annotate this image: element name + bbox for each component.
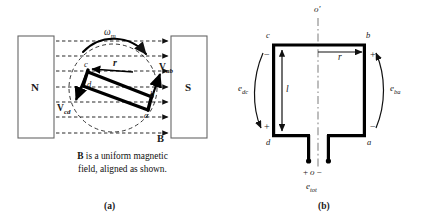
- sign-bottom-right: −: [370, 122, 376, 132]
- panel-b-canvas: [220, 0, 425, 200]
- terminal-minus-sign: −: [317, 167, 322, 177]
- panel-b-tag: (b): [318, 201, 330, 211]
- radius-arrow: [92, 69, 133, 72]
- omega-subscript: m: [111, 32, 116, 40]
- sign-top-right: +: [370, 50, 376, 60]
- sign-bottom-left: +: [264, 122, 270, 132]
- terminal-plus-sign: +: [303, 167, 308, 177]
- panel-b-coil-emf-schematic: o′ c b d a − + + − l r edc eba +o− etot: [220, 0, 425, 224]
- emf-dc-subscript: dc: [242, 88, 248, 95]
- corner-label-d: d: [266, 138, 270, 147]
- node-label-a: a: [144, 111, 148, 120]
- terminal-polarity-label: +o−: [303, 168, 322, 177]
- north-pole-label: N: [31, 82, 39, 93]
- velocity-label-cd: Vcd: [57, 104, 70, 116]
- velocity-cd-symbol: V: [57, 103, 64, 113]
- emf-ba-subscript: ba: [394, 88, 401, 95]
- corner-label-b: b: [366, 31, 370, 40]
- node-label-d: d: [87, 80, 91, 89]
- corner-label-a: a: [367, 138, 371, 147]
- sign-top-left: −: [264, 50, 270, 60]
- node-label-c: c: [84, 60, 88, 69]
- panel-a-tag: (a): [104, 201, 115, 211]
- velocity-ab-subscript: ab: [166, 67, 173, 75]
- emf-label-total: etot: [306, 182, 317, 193]
- panel-a-magnetic-field-diagram: N S ωm r c d b a Vab Vcd B: [0, 0, 220, 224]
- emf-label-dc: edc: [238, 84, 248, 95]
- emf-label-ba: eba: [390, 84, 401, 95]
- caption-line-1-rest: is a uniform magnetic: [83, 151, 167, 161]
- terminal-node-label: o: [310, 167, 315, 177]
- corner-label-c: c: [266, 31, 270, 40]
- field-label-b: B: [157, 134, 164, 145]
- coil-conductors: [83, 70, 152, 110]
- figure-caption: B is a uniform magnetic field, aligned a…: [55, 150, 190, 175]
- radius-label: r: [113, 58, 117, 68]
- caption-line-2: field, aligned as shown.: [78, 164, 167, 174]
- velocity-cd-subscript: cd: [64, 108, 71, 116]
- emf-total-subscript: tot: [310, 186, 317, 193]
- node-label-b: b: [150, 90, 154, 99]
- velocity-label-ab: Vab: [159, 63, 173, 75]
- omega-symbol: ω: [104, 27, 111, 37]
- angular-velocity-label: ωm: [104, 28, 116, 40]
- figure-root: N S ωm r c d b a Vab Vcd B: [0, 0, 425, 224]
- rotation-axis-label: o′: [314, 5, 320, 14]
- velocity-ab-symbol: V: [159, 62, 166, 72]
- magnetic-field-lines: [56, 41, 168, 133]
- emf-arrow-ba: [376, 53, 384, 128]
- emf-arrow-dc: [254, 53, 263, 128]
- radius-label-b: r: [338, 53, 342, 63]
- coil-outline: [272, 44, 366, 160]
- length-label-l: l: [286, 85, 289, 95]
- south-pole-label: S: [185, 82, 191, 93]
